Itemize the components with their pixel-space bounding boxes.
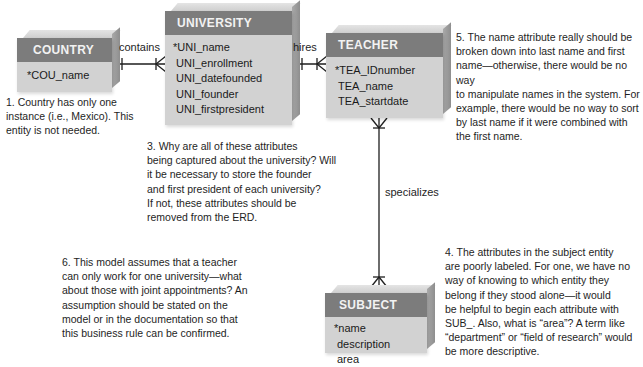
entity-box: SUBJECT *name description area [325, 293, 427, 353]
attribute-list: *COU_name [17, 62, 112, 84]
attribute: *UNI_name [173, 40, 292, 56]
entity-country[interactable]: COUNTRY *COU_name [17, 30, 112, 92]
note-line: example, there would be no way to sort [456, 101, 643, 115]
note-line: removed from the ERD. [147, 210, 336, 224]
note-line: being captured about the university? Wil… [147, 153, 336, 167]
note-line: 1. Country has only one [6, 95, 134, 109]
entity-title: UNIVERSITY [165, 11, 292, 35]
entity-subject[interactable]: SUBJECT *name description area [325, 285, 427, 353]
attribute: *name [334, 321, 427, 337]
note-line: broken down into last name and first [456, 44, 643, 58]
note-line: 5. The name attribute really should be [456, 30, 643, 44]
entity-university[interactable]: UNIVERSITY *UNI_name UNI_enrollment UNI_… [165, 3, 292, 125]
entity-side-face [292, 0, 300, 121]
entity-side-face [443, 22, 451, 114]
note-line: about those with joint appointments? An [62, 283, 248, 297]
note-line: entity is not needed. [6, 123, 134, 137]
note-line: SUB_. Also, what is “area”? A term like [445, 316, 632, 330]
entity-top-face [171, 3, 301, 11]
note-line: can only work for one university—what [62, 269, 248, 283]
note-line: to manipulate names in the system. For [456, 87, 643, 101]
relationship-label-specializes: specializes [385, 186, 439, 198]
note-line: be more descriptive. [445, 344, 632, 358]
note-5: 5. The name attribute really should be b… [456, 30, 643, 144]
entity-side-face [112, 27, 120, 88]
attribute: area [334, 352, 427, 367]
note-line: be helpful to begin each attribute with [445, 302, 632, 316]
note-line: If not, these attributes should be [147, 196, 336, 210]
attribute-list: *TEA_IDnumber TEA_name TEA_startdate [326, 57, 443, 110]
attribute: description [334, 337, 427, 353]
attribute-list: *UNI_name UNI_enrollment UNI_datefounded… [165, 35, 292, 118]
attribute: TEA_name [335, 79, 443, 95]
entity-top-face [23, 30, 121, 38]
note-6: 6. This model assumes that a teacher can… [62, 255, 248, 340]
note-line: assumption should be stated on the [62, 298, 248, 312]
attribute: *COU_name [27, 68, 112, 84]
entity-side-face [427, 282, 435, 349]
note-line: belong if they stood alone—it would [445, 288, 632, 302]
note-line: way of knowing to which entity they [445, 273, 632, 287]
note-line: 3. Why are all of these attributes [147, 139, 336, 153]
entity-box: COUNTRY *COU_name [17, 38, 112, 92]
entity-box: UNIVERSITY *UNI_name UNI_enrollment UNI_… [165, 11, 292, 125]
attribute: TEA_startdate [335, 94, 443, 110]
note-line: name—otherwise, there would be no way [456, 58, 643, 86]
note-line: it be necessary to store the founder [147, 167, 336, 181]
note-3: 3. Why are all of these attributes being… [147, 139, 336, 224]
note-line: this business rule can be confirmed. [62, 326, 248, 340]
relationship-label-contains: contains [119, 41, 160, 53]
note-1: 1. Country has only one instance (i.e., … [6, 95, 134, 138]
entity-title: TEACHER [326, 33, 443, 57]
note-line: instance (i.e., Mexico). This [6, 109, 134, 123]
attribute: UNI_enrollment [173, 56, 292, 72]
attribute: UNI_datefounded [173, 71, 292, 87]
note-line: model or in the documentation so that [62, 312, 248, 326]
note-line: “department” or “field of research” woul… [445, 330, 632, 344]
note-line: the first name. [456, 129, 643, 143]
attribute: UNI_firstpresident [173, 102, 292, 118]
note-line: by last name if it were combined with [456, 115, 643, 129]
entity-teacher[interactable]: TEACHER *TEA_IDnumber TEA_name TEA_start… [326, 25, 443, 118]
attribute: *TEA_IDnumber [335, 63, 443, 79]
attribute: UNI_founder [173, 87, 292, 103]
attribute-list: *name description area [325, 317, 427, 367]
relationship-label-hires: hires [293, 41, 317, 53]
entity-top-face [331, 285, 436, 293]
entity-box: TEACHER *TEA_IDnumber TEA_name TEA_start… [326, 33, 443, 118]
note-line: and first president of each university? [147, 182, 336, 196]
entity-top-face [332, 25, 452, 33]
entity-title: COUNTRY [17, 38, 112, 62]
note-line: are poorly labeled. For one, we have no [445, 259, 632, 273]
entity-title: SUBJECT [325, 293, 427, 317]
note-4: 4. The attributes in the subject entity … [445, 245, 632, 359]
note-line: 4. The attributes in the subject entity [445, 245, 632, 259]
note-line: 6. This model assumes that a teacher [62, 255, 248, 269]
